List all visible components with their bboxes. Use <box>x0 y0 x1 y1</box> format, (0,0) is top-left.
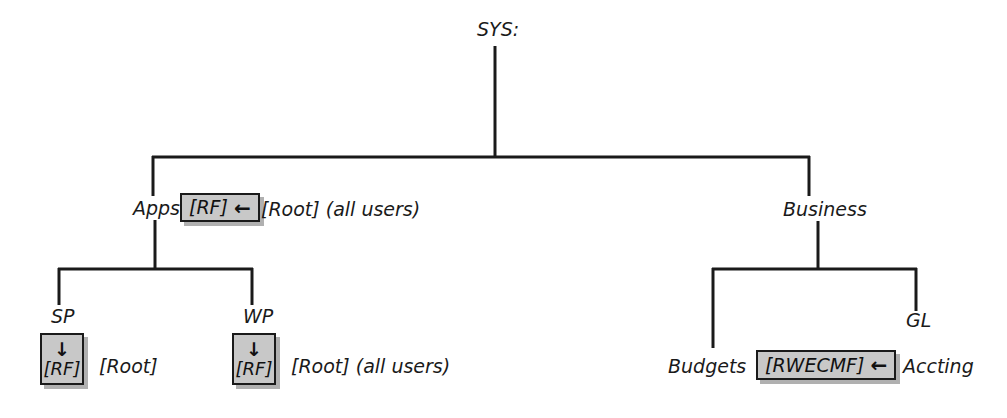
rights-box-apps-irf[interactable]: [RF] ← <box>180 193 260 222</box>
rights-box-budgets-irf-rights: [RWECMF] <box>765 356 864 375</box>
rights-box-budgets-irf[interactable]: [RWECMF] ← <box>756 350 896 380</box>
arrow-left-icon: ← <box>870 355 887 375</box>
rights-box-sp-irf[interactable]: ↓ [RF] <box>40 333 84 385</box>
annotation-sp-trustee: [Root] <box>99 357 158 376</box>
node-label-wp[interactable]: WP <box>240 307 276 326</box>
node-label-business[interactable]: Business <box>780 200 870 219</box>
rights-box-wp-irf-rights: [RF] <box>236 360 273 378</box>
rights-box-sp-irf-rights: [RF] <box>44 360 81 378</box>
rights-box-wp-irf[interactable]: ↓ [RF] <box>232 333 276 385</box>
annotation-accting-trustee: Accting <box>903 357 974 376</box>
node-label-budgets[interactable]: Budgets <box>665 357 749 376</box>
node-label-sp[interactable]: SP <box>48 307 78 326</box>
arrow-left-icon: ← <box>234 198 251 218</box>
arrow-down-icon: ↓ <box>246 340 262 359</box>
arrow-down-icon: ↓ <box>54 340 70 359</box>
rights-box-apps-irf-rights: [RF] <box>189 198 228 217</box>
directory-tree-diagram: SYS: Apps [RF] ← [Root] (all users) Busi… <box>0 0 1007 418</box>
node-label-apps[interactable]: Apps <box>130 199 183 218</box>
annotation-apps-trustee: [Root] (all users) <box>261 200 420 219</box>
node-label-sys-root[interactable]: SYS: <box>474 20 522 39</box>
annotation-wp-trustee: [Root] (all users) <box>291 357 450 376</box>
node-label-gl[interactable]: GL <box>903 311 934 330</box>
